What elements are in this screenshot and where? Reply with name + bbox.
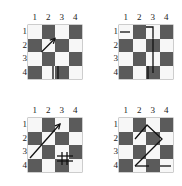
square-r2c2[interactable] xyxy=(133,132,147,146)
square-r3c1[interactable] xyxy=(28,52,42,66)
row-label-1: 1 xyxy=(106,25,118,39)
board-4[interactable] xyxy=(119,118,173,172)
row-label-4: 4 xyxy=(106,159,118,173)
square-r3c4[interactable] xyxy=(160,52,174,66)
square-r3c4[interactable] xyxy=(160,145,174,159)
square-r2c2[interactable] xyxy=(133,39,147,53)
square-r3c4[interactable] xyxy=(69,145,83,159)
col-label-2: 2 xyxy=(133,11,147,24)
square-r3c3[interactable] xyxy=(55,52,69,66)
panel-bottom-left: 1 2 3 4 1 2 3 4 xyxy=(0,93,91,186)
square-r4c2[interactable] xyxy=(42,66,56,80)
square-r4c1[interactable] xyxy=(119,66,133,80)
square-r2c4[interactable] xyxy=(160,39,174,53)
row-label-4: 4 xyxy=(15,66,27,80)
square-r1c3[interactable] xyxy=(55,25,69,39)
square-r3c3[interactable] xyxy=(146,52,160,66)
square-r3c3[interactable] xyxy=(55,145,69,159)
square-r4c3[interactable] xyxy=(55,159,69,173)
col-label-3: 3 xyxy=(146,11,160,24)
square-r1c4[interactable] xyxy=(160,118,174,132)
square-r1c1[interactable] xyxy=(28,118,42,132)
row-label-1: 1 xyxy=(15,118,27,132)
square-r3c2[interactable] xyxy=(133,145,147,159)
column-labels-4: 1 2 3 4 xyxy=(119,104,173,117)
square-r3c2[interactable] xyxy=(42,145,56,159)
square-r4c4[interactable] xyxy=(69,66,83,80)
square-r2c2[interactable] xyxy=(42,39,56,53)
row-label-2: 2 xyxy=(106,39,118,53)
square-r2c3[interactable] xyxy=(55,39,69,53)
row-labels-4: 1 2 3 4 xyxy=(106,118,118,172)
col-label-1: 1 xyxy=(28,11,42,24)
board-wrap-2 xyxy=(119,25,173,79)
square-r1c4[interactable] xyxy=(160,25,174,39)
col-label-4: 4 xyxy=(160,104,174,117)
row-labels-1: 1 2 3 4 xyxy=(15,25,27,79)
row-label-2: 2 xyxy=(15,132,27,146)
row-label-2: 2 xyxy=(15,39,27,53)
col-label-1: 1 xyxy=(28,104,42,117)
square-r4c4[interactable] xyxy=(160,159,174,173)
row-label-1: 1 xyxy=(15,25,27,39)
square-r2c4[interactable] xyxy=(160,132,174,146)
panel-bottom-right: 1 2 3 4 1 2 3 4 xyxy=(91,93,182,186)
board-1[interactable] xyxy=(28,25,82,79)
square-r1c3[interactable] xyxy=(55,118,69,132)
square-r2c1[interactable] xyxy=(119,132,133,146)
col-label-1: 1 xyxy=(119,104,133,117)
column-labels-1: 1 2 3 4 xyxy=(28,11,82,24)
col-label-2: 2 xyxy=(42,104,56,117)
square-r1c2[interactable] xyxy=(133,25,147,39)
square-r1c2[interactable] xyxy=(42,118,56,132)
row-labels-2: 1 2 3 4 xyxy=(106,25,118,79)
square-r2c1[interactable] xyxy=(119,39,133,53)
square-r4c2[interactable] xyxy=(42,159,56,173)
square-r4c2[interactable] xyxy=(133,66,147,80)
square-r4c2[interactable] xyxy=(133,159,147,173)
square-r3c3[interactable] xyxy=(146,145,160,159)
square-r4c1[interactable] xyxy=(119,159,133,173)
square-r3c1[interactable] xyxy=(119,145,133,159)
square-r1c1[interactable] xyxy=(119,118,133,132)
col-label-3: 3 xyxy=(55,104,69,117)
board-wrap-4 xyxy=(119,118,173,172)
square-r2c3[interactable] xyxy=(55,132,69,146)
square-r2c1[interactable] xyxy=(28,132,42,146)
square-r2c2[interactable] xyxy=(42,132,56,146)
square-r4c3[interactable] xyxy=(146,159,160,173)
row-label-4: 4 xyxy=(106,66,118,80)
square-r1c4[interactable] xyxy=(69,118,83,132)
board-2[interactable] xyxy=(119,25,173,79)
square-r2c3[interactable] xyxy=(146,132,160,146)
square-r2c4[interactable] xyxy=(69,132,83,146)
square-r4c3[interactable] xyxy=(146,66,160,80)
row-label-3: 3 xyxy=(15,145,27,159)
square-r1c2[interactable] xyxy=(133,118,147,132)
panel-top-right: 1 2 3 4 1 2 3 4 xyxy=(91,0,182,93)
square-r2c4[interactable] xyxy=(69,39,83,53)
square-r4c1[interactable] xyxy=(28,159,42,173)
square-r1c2[interactable] xyxy=(42,25,56,39)
col-label-4: 4 xyxy=(69,104,83,117)
square-r4c3[interactable] xyxy=(55,66,69,80)
square-r2c1[interactable] xyxy=(28,39,42,53)
square-r4c4[interactable] xyxy=(160,66,174,80)
square-r3c1[interactable] xyxy=(28,145,42,159)
square-r4c1[interactable] xyxy=(28,66,42,80)
square-r3c4[interactable] xyxy=(69,52,83,66)
square-r1c3[interactable] xyxy=(146,118,160,132)
square-r4c4[interactable] xyxy=(69,159,83,173)
row-label-4: 4 xyxy=(15,159,27,173)
square-r3c2[interactable] xyxy=(42,52,56,66)
square-r1c4[interactable] xyxy=(69,25,83,39)
square-r1c3[interactable] xyxy=(146,25,160,39)
square-r2c3[interactable] xyxy=(146,39,160,53)
col-label-1: 1 xyxy=(119,11,133,24)
square-r3c2[interactable] xyxy=(133,52,147,66)
square-r1c1[interactable] xyxy=(119,25,133,39)
row-label-1: 1 xyxy=(106,118,118,132)
square-r1c1[interactable] xyxy=(28,25,42,39)
board-3[interactable] xyxy=(28,118,82,172)
square-r3c1[interactable] xyxy=(119,52,133,66)
